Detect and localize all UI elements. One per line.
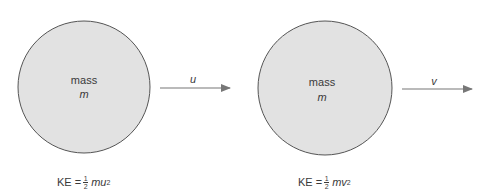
mass-label-after: mass: [302, 76, 342, 88]
ke-exponent: 2: [347, 179, 351, 186]
velocity-label-after: v: [424, 75, 444, 87]
ke-term: mv: [332, 176, 347, 188]
ke-prefix: KE =: [57, 176, 81, 188]
ball-after: [258, 21, 392, 155]
kinetic-energy-after: KE = 1 2 mv2: [298, 172, 351, 192]
kinetic-energy-before: KE = 1 2 mu2: [57, 172, 110, 192]
ke-prefix: KE =: [298, 176, 322, 188]
ke-term: mu: [91, 176, 106, 188]
velocity-label-before: u: [183, 73, 203, 85]
ball-before: [18, 21, 150, 153]
mass-label-before: mass: [64, 74, 104, 86]
ke-exponent: 2: [106, 179, 110, 186]
fraction-half: 1 2: [83, 175, 88, 190]
mass-symbol-before: m: [64, 88, 104, 100]
mass-symbol-after: m: [302, 91, 342, 103]
fraction-half: 1 2: [324, 175, 329, 190]
